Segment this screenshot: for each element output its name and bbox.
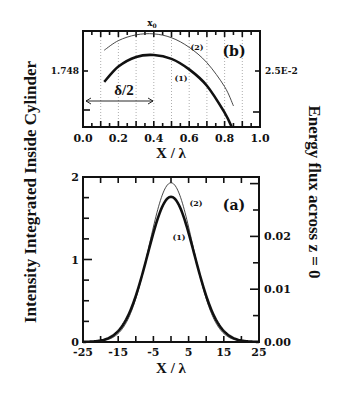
- panel-b-x-axis-title: X / λ: [156, 145, 187, 161]
- y-tick-label-right: 0.01: [264, 283, 291, 296]
- panel-b-y-left-tick-label: 1.748: [51, 66, 79, 76]
- x-tick-label: -5: [147, 346, 159, 359]
- x0-label: x0: [147, 18, 157, 29]
- panel-a-x-axis-title: X / λ: [156, 360, 187, 376]
- x-tick-label: 15: [216, 346, 231, 359]
- panel-b-x-tick-labels: 0.00.20.40.60.81.0: [73, 132, 269, 145]
- panel-a-curve-2-label: (2): [189, 198, 202, 208]
- x-tick-label: 25: [251, 346, 266, 359]
- x-tick-label: 1.0: [250, 132, 269, 145]
- panel-b-grid: [101, 31, 243, 127]
- panel-a-curve-1-label: (1): [172, 232, 185, 242]
- panel-a-y-right-tick-labels: 0.000.010.02: [264, 230, 291, 349]
- y-tick-label-left: 1: [71, 254, 79, 267]
- right-axis-title: Energy flux across z = 0: [305, 105, 324, 278]
- x-tick-label: 0.8: [215, 132, 234, 145]
- x-tick-label: 5: [185, 346, 193, 359]
- panel-b: δ/2 x0 (2) (1) (b) 1.748 2.5E-2 0.00.20.…: [51, 18, 298, 161]
- panel-a-y-left-tick-labels: 012: [71, 171, 79, 349]
- delta-half-arrow: [86, 98, 153, 104]
- panel-a-label: (a): [223, 197, 245, 213]
- left-axis-title: Intensity Integrated Inside Cylinder: [21, 61, 40, 324]
- y-tick-label-right: 0.00: [264, 336, 291, 349]
- panel-b-curve-1-label: (1): [174, 73, 187, 83]
- x-tick-label: 0.0: [73, 132, 92, 145]
- panel-a: (2) (1) (a) 012 0.000.010.02 -25-15-5515…: [71, 171, 291, 376]
- y-tick-label-left: 2: [71, 171, 79, 184]
- delta-half-label: δ/2: [114, 82, 133, 98]
- panel-b-y-right-tick-label: 2.5E-2: [265, 66, 298, 76]
- x-tick-label: 0.2: [109, 132, 128, 145]
- x-tick-label: -25: [73, 346, 93, 359]
- figure: Intensity Integrated Inside Cylinder Ene…: [0, 0, 341, 393]
- panel-a-x-tick-labels: -25-15-551525: [73, 346, 267, 359]
- y-tick-label-right: 0.02: [264, 230, 291, 243]
- x-tick-label: -15: [108, 346, 128, 359]
- panel-b-label: (b): [222, 43, 245, 59]
- x-tick-label: 0.4: [144, 132, 163, 145]
- panel-a-curve-1: [83, 197, 259, 342]
- panel-b-curve-2-label: (2): [190, 42, 203, 52]
- x-tick-label: 0.6: [180, 132, 199, 145]
